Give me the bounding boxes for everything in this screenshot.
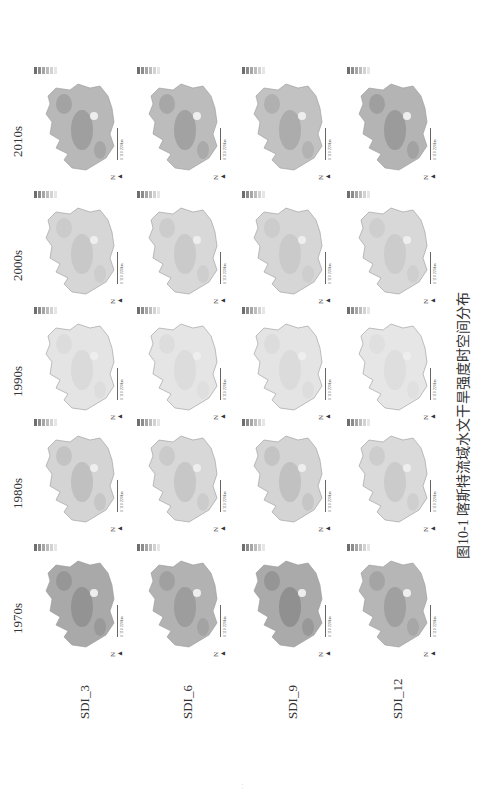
legend-swatch — [50, 191, 53, 198]
legend-swatch — [137, 307, 140, 314]
legend-swatch — [54, 191, 57, 198]
column-label-1980s: 1980s — [10, 478, 26, 509]
map-legend — [347, 188, 371, 198]
map-panel-SDI_12-1990s: N▲0 110 220km — [345, 304, 437, 422]
scale-bar: 0 110 220km — [325, 128, 332, 160]
legend-swatch — [157, 67, 160, 74]
legend-swatch — [46, 544, 49, 551]
map-panel-SDI_9-1990s: N▲0 110 220km — [240, 304, 332, 422]
legend-swatch — [347, 67, 350, 74]
legend-swatch — [137, 191, 140, 198]
basin-map — [42, 322, 118, 414]
legend-swatch — [367, 307, 370, 314]
scale-bar: 0 110 220km — [430, 605, 437, 637]
basin-map — [42, 82, 118, 174]
legend-swatch — [42, 544, 45, 551]
legend-swatch — [250, 191, 253, 198]
map-legend — [242, 541, 266, 551]
map-panel-SDI_12-2010s: N▲0 110 220km — [345, 64, 437, 182]
row-label-SDI_6: SDI_6 — [180, 685, 196, 719]
map-panel-SDI_3-1980s: N▲0 110 220km — [32, 416, 124, 534]
legend-swatch — [254, 67, 257, 74]
basin-map — [145, 322, 221, 414]
legend-swatch — [262, 67, 265, 74]
scale-bar: 0 110 220km — [430, 128, 437, 160]
north-arrow-icon: N▲ — [423, 650, 437, 657]
scale-bar: 0 110 220km — [430, 368, 437, 400]
basin-map — [42, 434, 118, 526]
legend-swatch — [141, 191, 144, 198]
legend-swatch — [246, 544, 249, 551]
basin-map — [250, 322, 326, 414]
legend-swatch — [355, 307, 358, 314]
legend-swatch — [254, 191, 257, 198]
legend-swatch — [246, 67, 249, 74]
legend-swatch — [141, 67, 144, 74]
legend-swatch — [153, 544, 156, 551]
legend-swatch — [54, 67, 57, 74]
legend-swatch — [367, 67, 370, 74]
basin-map — [250, 82, 326, 174]
map-legend — [34, 64, 58, 74]
basin-map — [42, 559, 118, 651]
scale-bar: 0 110 220km — [430, 252, 437, 284]
legend-swatch — [359, 544, 362, 551]
legend-swatch — [258, 307, 261, 314]
legend-swatch — [137, 544, 140, 551]
legend-swatch — [157, 307, 160, 314]
north-arrow-icon: N▲ — [318, 413, 332, 420]
legend-swatch — [42, 191, 45, 198]
legend-swatch — [38, 544, 41, 551]
north-arrow-icon: N▲ — [423, 297, 437, 304]
legend-swatch — [157, 191, 160, 198]
legend-swatch — [359, 307, 362, 314]
legend-swatch — [258, 544, 261, 551]
basin-map — [145, 559, 221, 651]
north-arrow-icon: N▲ — [213, 413, 227, 420]
legend-swatch — [50, 544, 53, 551]
scale-bar: 0 110 220km — [117, 480, 124, 512]
legend-swatch — [153, 307, 156, 314]
map-legend — [347, 541, 371, 551]
figure-caption: 图10-1 喀斯特流域水文干旱强度时空间分布 — [452, 292, 472, 559]
map-legend — [34, 541, 58, 551]
legend-swatch — [363, 307, 366, 314]
map-legend — [137, 541, 161, 551]
north-arrow-icon: N▲ — [423, 173, 437, 180]
map-panel-SDI_3-2000s: N▲0 110 220km — [32, 188, 124, 306]
legend-swatch — [351, 544, 354, 551]
legend-swatch — [363, 191, 366, 198]
legend-swatch — [367, 544, 370, 551]
legend-swatch — [363, 67, 366, 74]
map-panel-SDI_9-1970s: N▲0 110 220km — [240, 541, 332, 659]
map-legend — [34, 188, 58, 198]
map-panel-SDI_3-1970s: N▲0 110 220km — [32, 541, 124, 659]
scale-bar: 0 110 220km — [325, 605, 332, 637]
basin-map — [355, 82, 431, 174]
column-label-1970s: 1970s — [10, 603, 26, 634]
basin-map — [250, 559, 326, 651]
legend-swatch — [254, 544, 257, 551]
north-arrow-icon: N▲ — [110, 525, 124, 532]
basin-map — [145, 206, 221, 298]
rotated-figure-page: N▲0 110 220kmN▲0 110 220kmN▲0 110 220kmN… — [0, 0, 497, 794]
legend-swatch — [145, 544, 148, 551]
legend-swatch — [149, 67, 152, 74]
scale-bar: 0 110 220km — [220, 368, 227, 400]
scale-bar: 0 110 220km — [430, 480, 437, 512]
legend-swatch — [246, 307, 249, 314]
scale-bar: 0 110 220km — [117, 252, 124, 284]
legend-swatch — [262, 191, 265, 198]
legend-swatch — [258, 191, 261, 198]
scale-bar: 0 110 220km — [325, 252, 332, 284]
legend-swatch — [351, 307, 354, 314]
legend-swatch — [149, 544, 152, 551]
legend-swatch — [351, 191, 354, 198]
scale-bar: 0 110 220km — [325, 480, 332, 512]
north-arrow-icon: N▲ — [110, 413, 124, 420]
map-panel-SDI_9-1980s: N▲0 110 220km — [240, 416, 332, 534]
legend-swatch — [250, 544, 253, 551]
column-label-2000s: 2000s — [10, 250, 26, 281]
basin-map — [355, 434, 431, 526]
basin-map — [355, 559, 431, 651]
